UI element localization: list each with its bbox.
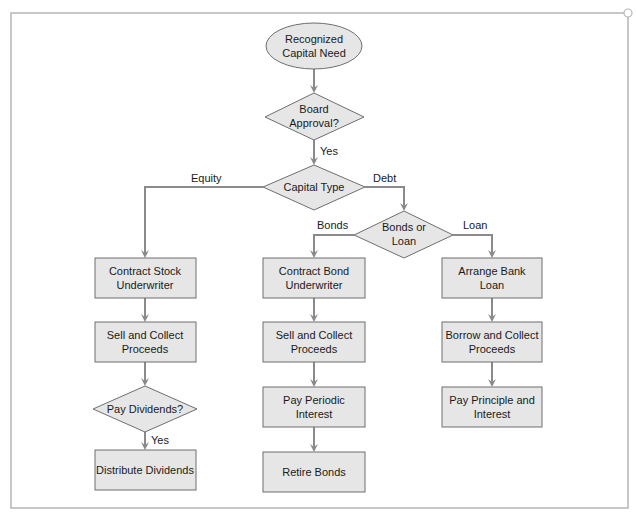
svg-text:Pay Dividends?: Pay Dividends? (107, 403, 183, 415)
node-contract-stock-underwriter: Contract Stock Underwriter (95, 258, 196, 298)
label-loan: Loan (463, 219, 487, 231)
svg-text:Interest: Interest (296, 408, 333, 420)
svg-text:Retire Bonds: Retire Bonds (282, 466, 346, 478)
svg-text:Distribute Dividends: Distribute Dividends (96, 464, 194, 476)
label-bonds: Bonds (317, 219, 349, 231)
svg-text:Bonds or: Bonds or (382, 221, 426, 233)
svg-text:Loan: Loan (392, 235, 416, 247)
node-capital-type: Capital Type (263, 165, 365, 210)
svg-text:Pay Principle and: Pay Principle and (449, 394, 535, 406)
svg-text:Pay Periodic: Pay Periodic (283, 394, 345, 406)
svg-text:Proceeds: Proceeds (469, 343, 516, 355)
flowchart-canvas: Yes Equity Debt Bonds Loan Yes Recognize… (0, 0, 637, 515)
node-contract-bond-underwriter: Contract Bond Underwriter (263, 258, 365, 298)
svg-text:Borrow and Collect: Borrow and Collect (446, 329, 539, 341)
node-pay-dividends: Pay Dividends? (93, 386, 197, 432)
edge-loan (453, 235, 492, 255)
svg-text:Sell and Collect: Sell and Collect (107, 329, 183, 341)
node-distribute-dividends: Distribute Dividends (95, 450, 196, 490)
node-sell-collect-stock: Sell and Collect Proceeds (95, 322, 196, 362)
node-board-approval: Board Approval? (265, 93, 364, 140)
node-pay-periodic-interest: Pay Periodic Interest (263, 387, 365, 427)
node-recognized-capital-need: Recognized Capital Need (266, 23, 362, 69)
svg-text:Contract Stock: Contract Stock (109, 265, 182, 277)
svg-text:Proceeds: Proceeds (291, 343, 338, 355)
corner-marker-icon (624, 9, 632, 17)
node-borrow-collect-proceeds: Borrow and Collect Proceeds (442, 322, 542, 362)
edge-debt (365, 187, 404, 208)
edge-bonds (314, 235, 354, 255)
node-pay-principle-interest: Pay Principle and Interest (442, 387, 542, 427)
label-debt: Debt (373, 172, 396, 184)
svg-text:Board: Board (299, 103, 328, 115)
node-arrange-bank-loan: Arrange Bank Loan (442, 258, 542, 298)
label-approval-yes: Yes (320, 145, 338, 157)
node-retire-bonds: Retire Bonds (263, 452, 365, 492)
svg-text:Contract Bond: Contract Bond (279, 265, 349, 277)
svg-text:Loan: Loan (480, 279, 504, 291)
svg-text:Interest: Interest (474, 408, 511, 420)
svg-text:Capital Need: Capital Need (282, 47, 346, 59)
svg-text:Underwriter: Underwriter (117, 279, 174, 291)
svg-text:Arrange Bank: Arrange Bank (458, 265, 526, 277)
svg-text:Underwriter: Underwriter (286, 279, 343, 291)
node-sell-collect-bond: Sell and Collect Proceeds (263, 322, 365, 362)
svg-text:Sell and Collect: Sell and Collect (276, 329, 352, 341)
label-dividends-yes: Yes (151, 434, 169, 446)
svg-text:Capital Type: Capital Type (284, 181, 345, 193)
edge-equity (145, 187, 263, 255)
node-bonds-or-loan: Bonds or Loan (354, 211, 453, 258)
label-equity: Equity (191, 172, 222, 184)
svg-text:Approval?: Approval? (289, 117, 339, 129)
svg-text:Recognized: Recognized (285, 33, 343, 45)
svg-text:Proceeds: Proceeds (122, 343, 169, 355)
